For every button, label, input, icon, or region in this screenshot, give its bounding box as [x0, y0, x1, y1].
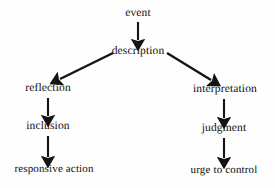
- edge-description-to-interpretation: [167, 53, 211, 80]
- node-event: event: [125, 8, 151, 20]
- diagram-canvas: event description reflection interpretat…: [0, 0, 275, 188]
- node-judgment: judgment: [202, 123, 247, 135]
- node-interpretation: interpretation: [193, 84, 257, 96]
- node-reflection: reflection: [25, 83, 71, 95]
- node-inclusion: inclusion: [26, 121, 70, 133]
- node-description: description: [112, 46, 165, 58]
- edge-description-to-reflection: [60, 53, 113, 79]
- node-responsive-action: responsive action: [14, 164, 93, 175]
- node-urge-to-control: urge to control: [191, 165, 258, 176]
